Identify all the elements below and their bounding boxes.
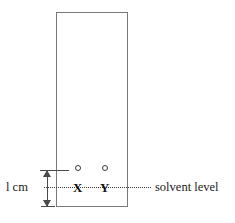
solvent-level-label: solvent level <box>155 179 219 195</box>
solvent-level-line <box>44 187 151 188</box>
chromatography-plate <box>56 12 128 207</box>
origin-label-x: X <box>73 180 82 196</box>
dimension-label: l cm <box>6 179 28 195</box>
sample-spot-x-circle-icon <box>75 165 81 171</box>
dimension-arrowhead-up-icon <box>43 170 51 177</box>
sample-spot-y-circle-icon <box>102 165 108 171</box>
origin-label-y: Y <box>100 180 109 196</box>
dimension-bottom-tick <box>41 206 55 207</box>
tlc-chromatography-diagram: solvent level l cm X Y <box>0 0 235 223</box>
